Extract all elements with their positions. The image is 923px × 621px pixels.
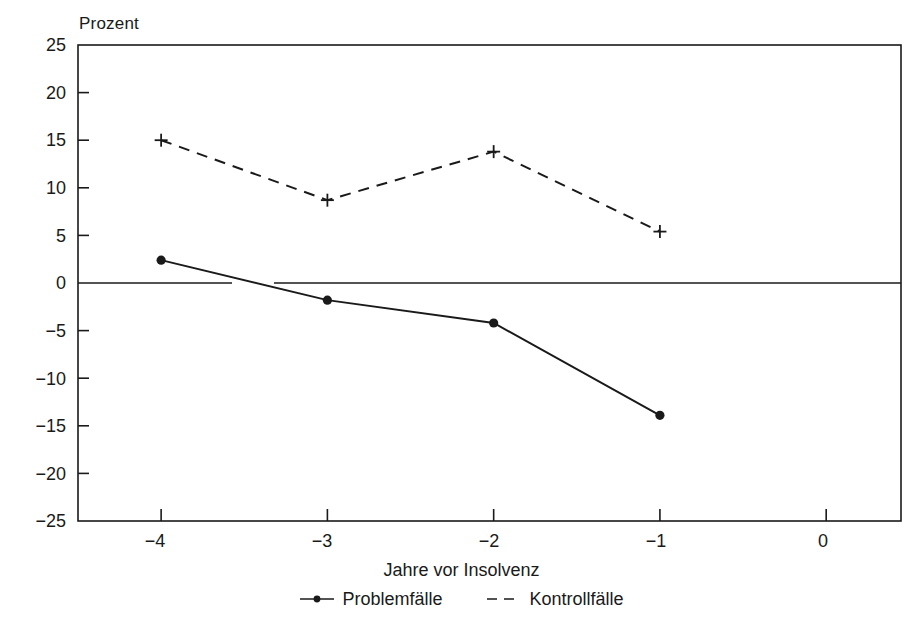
chart-plot-area xyxy=(0,0,923,621)
chart-container: Prozent 25 20 15 10 5 0 −5 −10 −15 −20 −… xyxy=(0,0,923,621)
